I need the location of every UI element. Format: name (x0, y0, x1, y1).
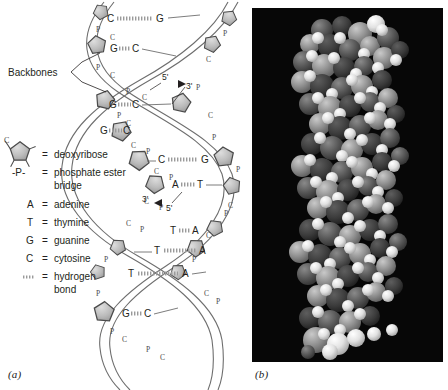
base-right: G (201, 154, 209, 165)
three-prime-label: 3' (142, 194, 149, 204)
helix-sphere-cluster (289, 15, 409, 360)
base-right: C (144, 308, 151, 319)
sugar-letter: C (228, 201, 233, 210)
sugar-letter: C (208, 111, 213, 120)
sugar-letter: C (126, 219, 131, 228)
double-helix-schematic: P C P C P C P C C P C P C P C P P P P C (0, 0, 250, 390)
base-left: A (172, 179, 179, 190)
base-right: C (132, 43, 139, 54)
base-left: T (128, 268, 134, 279)
phosphate-letter: P (117, 111, 121, 120)
base-left: G (122, 308, 130, 319)
legend-symbol: A (27, 199, 34, 210)
phosphate-letter: P (104, 255, 108, 264)
five-prime-label: 5' (162, 72, 169, 82)
phosphate-letter: P (146, 345, 150, 354)
legend-text: phosphate ester (54, 167, 126, 178)
polarity-arrow (178, 80, 186, 88)
sugar-letter: C (142, 93, 147, 102)
base-left: C (158, 154, 165, 165)
base-pairs: C G G C G C (100, 13, 222, 319)
sugar-pentagon (222, 175, 242, 195)
base-right: A (199, 245, 206, 256)
legend-item: -P- = phosphate ester bridge (12, 167, 126, 191)
base-right: T (197, 179, 203, 190)
legend-sugar-carbon-label: C (4, 136, 9, 145)
phosphate-letter: P (212, 133, 216, 142)
backbones-annotation: Backbones (8, 53, 106, 92)
phosphate-letter: P (140, 225, 144, 234)
phosphate-letter: P (96, 63, 100, 72)
sugar-letter: C (154, 167, 159, 176)
legend-equals: = (42, 167, 48, 178)
base-pair: T A (170, 225, 199, 236)
sugar-pentagon (87, 34, 107, 53)
phosphate-letter: P (224, 209, 228, 218)
legend-item: A = adenine (27, 199, 90, 210)
base-left: T (154, 245, 160, 256)
base-pair: C G (107, 13, 200, 24)
base-left: T (170, 225, 176, 236)
phosphate-letter: P (236, 165, 240, 174)
base-pair: G C (110, 43, 176, 56)
legend-text: guanine (54, 235, 90, 246)
base-right: C (123, 125, 130, 136)
base-right: G (156, 13, 164, 24)
legend-text: adenine (54, 199, 90, 210)
base-left: G (100, 125, 108, 136)
base-right: A (182, 268, 189, 279)
phosphate-letter: P (196, 83, 200, 92)
legend-symbol: C (26, 253, 33, 264)
sugar-letter: C (160, 353, 165, 362)
legend-item: C = deoxyribose (4, 136, 108, 167)
sugar-pentagon (94, 301, 115, 321)
panel-a-schematic: P C P C P C P C C P C P C P C P P P P C (0, 0, 250, 390)
three-prime-label: 3' (186, 81, 193, 91)
legend-text: cytosine (54, 253, 91, 264)
base-left: C (107, 13, 114, 24)
sugar-letter: C (110, 33, 115, 42)
legend-equals: = (42, 253, 48, 264)
polarity-arrow (154, 199, 162, 207)
space-filling-spheres (252, 8, 443, 362)
legend-text: hydrogen (54, 271, 96, 282)
legend-symbol: -P- (12, 167, 25, 178)
legend: C = deoxyribose -P- = phosphate ester br… (4, 136, 126, 295)
backbone-ribbons (62, 2, 238, 390)
base-left: G (110, 43, 118, 54)
backbones-label: Backbones (8, 67, 57, 78)
panel-b-caption: (b) (255, 368, 268, 380)
base-pair: C G (147, 154, 209, 165)
legend-text: thymine (54, 217, 89, 228)
legend-item: = hydrogen bond (23, 271, 96, 295)
sugar-letter: C (122, 335, 127, 344)
legend-equals: = (42, 235, 48, 246)
legend-symbol: T (27, 217, 33, 228)
deoxyribose-pentagon-icon (10, 142, 29, 160)
legend-equals: = (42, 149, 48, 160)
sugar-letter: C (206, 231, 211, 240)
sugar-letter: C (110, 71, 115, 80)
legend-equals: = (42, 217, 48, 228)
base-right: A (192, 225, 199, 236)
phosphate-letter: P (126, 87, 130, 96)
legend-text-line2: bridge (54, 180, 82, 191)
legend-equals: = (42, 199, 48, 210)
phosphate-letter: P (146, 147, 150, 156)
legend-equals: = (42, 271, 48, 282)
legend-item: G = guanine (26, 235, 90, 246)
five-prime-label: 5' (166, 203, 173, 213)
sugar-letter: C (206, 55, 211, 64)
base-right: C (132, 99, 139, 110)
sugar-letter: C (204, 289, 209, 298)
phosphate-letter: P (192, 255, 196, 264)
phosphate-letter: P (96, 289, 100, 298)
phosphate-letter: P (223, 29, 227, 38)
sugar-pentagon (107, 236, 128, 257)
panel-a-caption: (a) (8, 368, 21, 380)
phosphate-letter: P (110, 327, 114, 336)
legend-text-line2: bond (54, 284, 76, 295)
base-left: G (109, 99, 117, 110)
legend-text: deoxyribose (54, 149, 108, 160)
sugar-letter: C (131, 141, 136, 150)
